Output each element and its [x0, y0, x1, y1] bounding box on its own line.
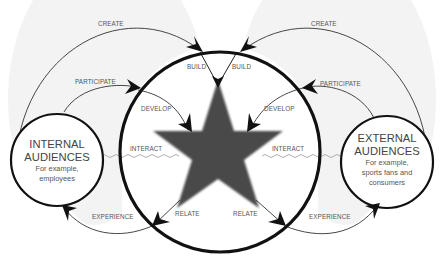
label-create-right: CREATE	[311, 20, 337, 27]
external-audiences-example-3: consumers	[369, 178, 405, 187]
internal-audiences-example-1: For example,	[35, 164, 78, 173]
label-interact-right: INTERACT	[272, 145, 304, 152]
external-audiences-title-2: AUDIENCES	[354, 145, 419, 157]
label-participate-right: PARTICIPATE	[320, 80, 361, 87]
label-participate-left: PARTICIPATE	[75, 78, 116, 85]
internal-audiences-example-2: employees	[39, 174, 75, 183]
label-relate-right: RELATE	[233, 210, 258, 217]
internal-audiences-title-2: AUDIENCES	[24, 151, 89, 163]
label-develop-left: DEVELOP	[141, 105, 171, 112]
label-interact-left: INTERACT	[130, 145, 162, 152]
label-build-left: BUILD	[187, 63, 206, 70]
label-create-left: CREATE	[98, 20, 124, 27]
external-audiences-title-1: EXTERNAL	[357, 132, 416, 144]
label-experience-right: EXPERIENCE	[309, 213, 351, 220]
engagement-diagram: CREATE CREATE PARTICIPATE PARTICIPATE BU…	[0, 0, 443, 265]
external-audiences-example-1: For example,	[365, 158, 408, 167]
label-develop-right: DEVELOP	[264, 105, 294, 112]
internal-audiences-title-1: INTERNAL	[29, 138, 84, 150]
label-relate-left: RELATE	[175, 210, 200, 217]
external-audiences-example-2: sports fans and	[362, 168, 413, 177]
label-build-right: BUILD	[232, 63, 251, 70]
label-experience-left: EXPERIENCE	[92, 213, 134, 220]
